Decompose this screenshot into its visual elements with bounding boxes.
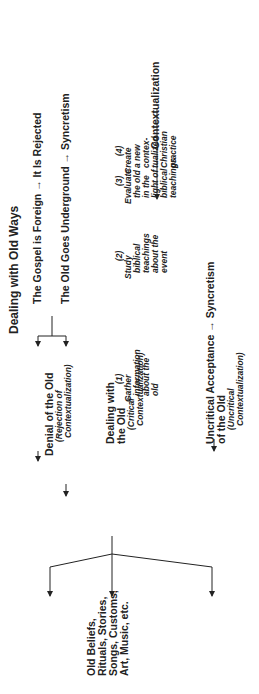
branch-uncritical: Uncritical Acceptance → Syncretism of th… xyxy=(205,262,245,444)
step-1: (1) Gather information about the old xyxy=(115,349,160,402)
source-box: Old Beliefs, Rituals, Stories, Songs, Cu… xyxy=(86,590,130,676)
branch-sub: Contextualization) xyxy=(64,364,73,456)
step-4: (4) Create a new contex- tualized Christ… xyxy=(115,131,177,174)
outcome-underground: The Old Goes Underground → Syncretism xyxy=(60,93,71,304)
diagram-title: Dealing with Old Ways xyxy=(8,206,21,334)
step-2: (2) Study biblical teachings about the e… xyxy=(115,233,169,279)
branch-sub: Contextualization) xyxy=(236,262,245,444)
branch-denial: Denial of the Old (Rejection of Contextu… xyxy=(44,364,73,456)
outcome-foreign: The Gospel is Foreign → It Is Rejected xyxy=(32,113,43,304)
source-line: Art, Music, etc. xyxy=(119,590,130,676)
critical-result: Contextualization xyxy=(150,61,161,149)
diagram-canvas: Dealing with Old Ways Old Beliefs, Ritua… xyxy=(0,0,259,694)
